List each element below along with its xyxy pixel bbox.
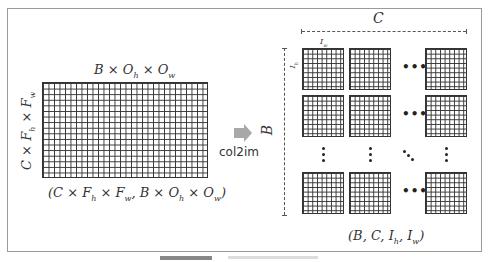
image-block-b1-c2 (349, 48, 391, 90)
c-dim-tick-left (301, 29, 302, 34)
image-block-bn-c1 (302, 172, 344, 214)
diagonal-ellipsis (403, 150, 417, 164)
c-dim-tick-right (466, 29, 467, 34)
right-arrow-icon (234, 124, 254, 142)
b-dimension-line (284, 48, 285, 215)
image-block-b2-c1 (302, 95, 344, 137)
caption-figure-label-block (160, 256, 212, 260)
b-dim-tick-top (282, 48, 287, 49)
image-block-bn-c2 (349, 172, 391, 214)
image-block-b1-c1 (302, 48, 344, 90)
caption-text-cutoff (228, 256, 318, 259)
c-dimension-line (302, 31, 466, 32)
cell-height-label: Ih (288, 62, 299, 68)
image-block-bn-cn (425, 172, 467, 214)
image-block-b1-cn (425, 48, 467, 90)
left-side-label: C × Fh × Fw (19, 91, 37, 171)
cell-width-label: Iw (320, 37, 327, 48)
column-matrix-grid (42, 82, 208, 178)
operation-label: col2im (219, 145, 259, 159)
vertical-ellipsis-coln (445, 147, 448, 165)
right-top-dim-label: C (373, 10, 384, 26)
image-block-b2-cn (425, 95, 467, 137)
vertical-ellipsis-col2 (369, 147, 372, 165)
right-side-dim-label: B (259, 125, 275, 135)
b-dim-tick-bottom (282, 215, 287, 216)
left-bottom-label: (C × Fh × Fw, B × Oh × Ow) (48, 185, 226, 203)
image-block-b2-c2 (349, 95, 391, 137)
vertical-ellipsis-col1 (322, 147, 325, 165)
left-top-label: B × Oh × Ow (94, 62, 175, 80)
right-bottom-label: (B, C, Ih, Iw) (348, 228, 424, 246)
